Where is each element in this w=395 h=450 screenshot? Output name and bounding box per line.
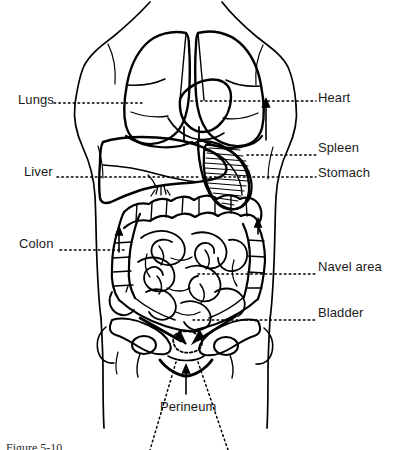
label-heart: Heart	[318, 91, 350, 104]
large-intestine-colon	[110, 195, 265, 331]
figure-caption: Figure 5-10	[6, 441, 62, 450]
torso-outline	[74, 2, 296, 428]
label-bladder: Bladder	[318, 306, 364, 319]
label-liver: Liver	[24, 165, 53, 178]
label-stomach: Stomach	[318, 166, 370, 179]
figure-canvas: Lungs Heart Spleen Liver Stomach Colon N…	[0, 0, 395, 450]
label-navel-area: Navel area	[318, 260, 382, 273]
label-lungs: Lungs	[18, 93, 54, 106]
label-colon: Colon	[19, 237, 53, 250]
leader-lines	[54, 101, 316, 450]
anatomy-diagram	[0, 0, 395, 450]
label-spleen: Spleen	[318, 141, 359, 154]
label-perineum: Perineum	[160, 400, 216, 413]
small-intestine	[138, 231, 247, 330]
